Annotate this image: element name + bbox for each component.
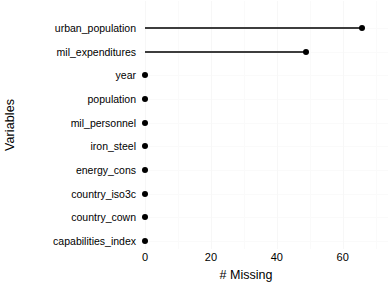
y-axis-tick-label: iron_steel (18, 141, 136, 152)
y-axis-tick-label: mil_expenditures (18, 46, 136, 57)
gridline-vertical-minor (310, 1, 311, 249)
y-axis-tick-label: population (18, 94, 136, 105)
gridline-vertical-minor (376, 1, 377, 249)
y-axis-tick-label: mil_personnel (18, 117, 136, 128)
x-axis-title: # Missing (146, 268, 346, 282)
x-axis-tick-label: 20 (205, 251, 217, 263)
x-axis-tick-label: 60 (337, 251, 349, 263)
data-point[interactable] (142, 214, 148, 220)
lollipop-stem (145, 51, 306, 53)
data-point[interactable] (142, 238, 148, 244)
y-axis-title-text: Variables (3, 99, 17, 151)
y-axis-tick-label: energy_cons (18, 165, 136, 176)
data-point[interactable] (142, 120, 148, 126)
gridline-vertical-minor (178, 1, 179, 249)
y-axis-tick-label: urban_population (18, 23, 136, 34)
y-axis-tick-label: capabilities_index (18, 236, 136, 247)
data-point[interactable] (142, 167, 148, 173)
y-axis-tick-label: country_cown (18, 212, 136, 223)
x-axis-tick-label: 40 (271, 251, 283, 263)
gridline-vertical-minor (244, 1, 245, 249)
y-axis-tick-label: country_iso3c (18, 188, 136, 199)
data-point[interactable] (359, 25, 365, 31)
plot-area (141, 1, 388, 249)
gridline-vertical-major (343, 1, 344, 249)
missing-values-lollipop-chart: Variables urban_populationmil_expenditur… (0, 0, 392, 299)
gridline-vertical-major (277, 1, 278, 249)
lollipop-stem (145, 27, 362, 29)
data-point[interactable] (142, 96, 148, 102)
y-axis-tick-label: year (18, 70, 136, 81)
y-axis-title: Variables (0, 0, 20, 250)
data-point[interactable] (142, 191, 148, 197)
data-point[interactable] (142, 143, 148, 149)
gridline-vertical-major (211, 1, 212, 249)
y-axis-tick-labels: urban_populationmil_expendituresyearpopu… (18, 0, 136, 250)
data-point[interactable] (303, 49, 309, 55)
data-point[interactable] (142, 72, 148, 78)
x-axis-tick-labels: 0204060 (0, 251, 392, 267)
x-axis-tick-label: 0 (142, 251, 148, 263)
